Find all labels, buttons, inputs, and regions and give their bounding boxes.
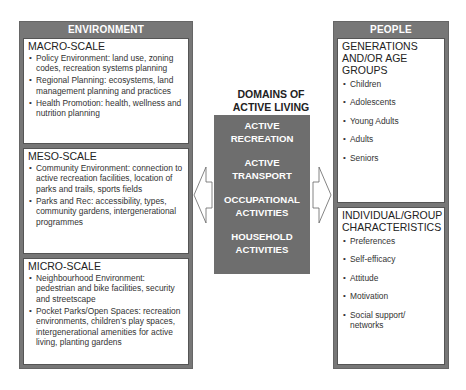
list-item: Social support/ networks (342, 310, 440, 331)
domain-active-transport: ACTIVE TRANSPORT (214, 156, 310, 182)
list-item: Young Adults (342, 116, 440, 126)
list-item: Regional Planning: ecosystems, land mana… (28, 75, 184, 96)
list-item: Motivation (342, 291, 440, 301)
list-item: Pocket Parks/Open Spaces: recreation env… (28, 306, 184, 348)
domains-title: DOMAINS OF ACTIVE LIVING (218, 88, 324, 114)
list-item: Seniors (342, 153, 440, 163)
domain-occupational-activities: OCCUPATIONAL ACTIVITIES (214, 193, 310, 219)
meso-scale-box: MESO-SCALE Community Environment: connec… (23, 148, 189, 254)
list-item: Neighbourhood Environment: pedestrian an… (28, 273, 184, 304)
list-item: Parks and Rec: accessibility, types, com… (28, 196, 184, 227)
environment-title: ENVIRONMENT (20, 22, 192, 38)
list-item: Policy Environment: land use, zoning cod… (28, 53, 184, 74)
list-item: Adolescents (342, 97, 440, 107)
domains-box: ACTIVE RECREATION ACTIVE TRANSPORT OCCUP… (214, 115, 310, 274)
domain-active-recreation: ACTIVE RECREATION (214, 119, 310, 145)
meso-scale-title: MESO-SCALE (28, 150, 184, 162)
macro-scale-box: MACRO-SCALE Policy Environment: land use… (23, 38, 189, 144)
people-panel: PEOPLE GENERATIONS AND/OR AGE GROUPS Chi… (333, 21, 449, 369)
list-item: Children (342, 79, 440, 89)
micro-scale-box: MICRO-SCALE Neighbourhood Environment: p… (23, 258, 189, 365)
generations-title: GENERATIONS AND/OR AGE GROUPS (342, 40, 440, 76)
domain-household-activities: HOUSEHOLD ACTIVITIES (214, 230, 310, 256)
list-item: Self-efficacy (342, 254, 440, 264)
list-item: Community Environment: connection to act… (28, 163, 184, 194)
macro-scale-title: MACRO-SCALE (28, 40, 184, 52)
list-item: Preferences (342, 236, 440, 246)
list-item: Health Promotion: health, wellness and n… (28, 98, 184, 119)
characteristics-box: INDIVIDUAL/GROUP CHARACTERISTICS Prefere… (337, 207, 445, 365)
micro-scale-title: MICRO-SCALE (28, 260, 184, 272)
generations-box: GENERATIONS AND/OR AGE GROUPS Children A… (337, 38, 445, 203)
list-item: Adults (342, 134, 440, 144)
arrow-right-icon (312, 166, 332, 224)
characteristics-title: INDIVIDUAL/GROUP CHARACTERISTICS (342, 209, 440, 233)
people-title: PEOPLE (334, 22, 448, 38)
list-item: Attitude (342, 273, 440, 283)
arrow-left-icon (193, 166, 213, 224)
environment-panel: ENVIRONMENT MACRO-SCALE Policy Environme… (19, 21, 193, 369)
